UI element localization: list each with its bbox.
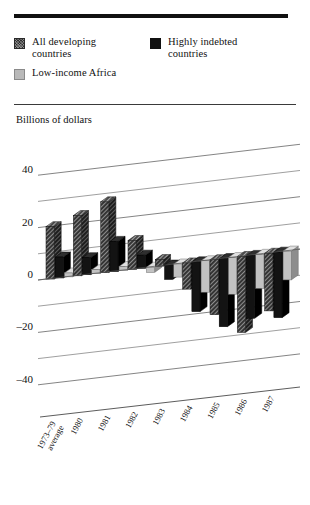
legend-label-highly-indebted-line1: Highly indebted [168,36,237,47]
y-tick-label-20: 20 [22,216,34,228]
legend-swatch-low-income-africa-icon [14,69,25,80]
legend-label-all-developing: All developing countries [32,36,96,59]
bar-front-face [210,260,218,315]
legend-label-all-developing-line2: countries [32,48,71,59]
legend-item-low-income-africa: Low-income Africa [14,67,150,80]
chart-x-tick-labels: 1973–79average19801981198219831984198519… [35,394,277,452]
y-tick-label-40: 40 [22,163,34,175]
x-tick-label-1985: 1985 [205,400,222,420]
bar-front-face [192,262,200,312]
x-tick-label-1987: 1987 [260,394,277,414]
x-tick-label-1984: 1984 [178,403,195,423]
bar-front-face [228,258,236,295]
y-tick-label--40: –40 [16,373,34,385]
bar-front-face [256,254,264,288]
bar-front-face [247,255,255,318]
chart-y-tick-labels: 40200–20–40 [16,163,34,385]
bar-front-face [283,251,291,280]
bar-front-face [174,264,182,277]
legend-label-highly-indebted: Highly indebted countries [168,36,237,59]
bar-front-face [165,265,173,279]
chart-legend: All developing countries Highly indebted… [14,36,296,80]
bar-front-face [83,258,91,275]
x-tick-label-1983: 1983 [150,407,167,427]
gridline--30 [38,328,300,359]
category-axis-line [40,387,300,417]
legend-divider-rule [14,104,296,105]
chart-bars [46,197,298,333]
bar-front-face [237,256,245,332]
bar-front-face [265,253,273,311]
gridline--40 [38,354,300,385]
legend-label-low-income-africa: Low-income Africa [32,67,116,79]
legend-swatch-highly-indebted-icon [150,38,161,49]
x-tick-label-1982: 1982 [123,410,140,430]
chart-plot-area: 40200–20–40 1973–79average19801981198219… [0,125,310,505]
bar-front-face [137,255,145,268]
x-tick-label-1980: 1980 [68,416,85,436]
bar-front-face [219,259,227,327]
figure-root: All developing countries Highly indebted… [0,0,310,505]
bar-front-face [146,267,154,272]
legend-row-2: Low-income Africa [14,67,296,80]
bar-front-face [110,241,118,271]
top-rule [14,14,288,18]
legend-item-all-developing: All developing countries [14,36,150,59]
legend-label-highly-indebted-line2: countries [168,48,207,59]
legend-row-1: All developing countries Highly indebted… [14,36,296,59]
bar-front-face [55,257,63,278]
bar-front-face [46,227,54,279]
bar-front-face [183,263,191,289]
x-tick-label-1986: 1986 [232,397,249,417]
x-tick-label-1981: 1981 [96,413,113,433]
bar-front-face [128,241,136,270]
bar-front-face [201,261,209,292]
gridline-30 [38,170,300,201]
bar-side-face [291,246,298,280]
legend-item-highly-indebted: Highly indebted countries [150,36,290,59]
y-tick-label-0: 0 [28,268,34,280]
bar-front-face [73,216,81,276]
bar-front-face [274,252,282,318]
legend-label-all-developing-line1: All developing [32,36,96,47]
y-tick-label--20: –20 [16,320,34,332]
bar-front-face [101,202,109,273]
legend-swatch-all-developing-icon [14,38,25,49]
gridline-40 [38,144,300,175]
